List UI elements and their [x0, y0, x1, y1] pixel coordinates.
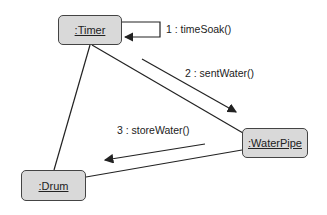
message-label-3: 3 : storeWater(): [117, 124, 190, 136]
object-waterpipe: :WaterPipe: [242, 128, 308, 158]
message-label-2: 2 : sentWater(): [185, 67, 254, 79]
object-timer: :Timer: [58, 15, 122, 45]
message-label-1: 1 : timeSoak(): [166, 23, 231, 35]
self-link-timer: [122, 22, 160, 37]
link-waterpipe-drum: [86, 150, 242, 177]
link-timer-waterpipe: [92, 45, 243, 133]
link-timer-drum: [54, 45, 90, 170]
object-drum: :Drum: [21, 170, 86, 201]
message-arrow-3: [105, 144, 205, 160]
